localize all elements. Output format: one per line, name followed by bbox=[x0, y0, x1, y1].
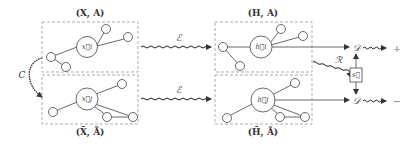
output-arrow-positive bbox=[363, 47, 386, 49]
encoded-pair-label-original: (H, A) bbox=[248, 8, 278, 18]
encoder-label-top: ℰ bbox=[176, 33, 181, 43]
discriminator-label-bottom: 𝒟 bbox=[353, 96, 360, 107]
positive-output-label: + bbox=[393, 43, 401, 54]
diagram-canvas: (X, A) (X̃, Ã) (H, A) (H̃, Ã) x⃗i x⃗j h⃗… bbox=[0, 0, 414, 149]
encoder-arrow-bottom bbox=[141, 98, 211, 100]
encoded-pair-label-augmented: (H̃, Ã) bbox=[248, 127, 278, 137]
corruption-label: C bbox=[19, 70, 26, 80]
node-label-hi: h⃗i bbox=[256, 43, 267, 51]
discriminator-label-top: 𝒟 bbox=[353, 43, 360, 54]
input-pair-label-augmented: (X̃, Ã) bbox=[76, 127, 105, 137]
readout-label: ℛ bbox=[335, 55, 342, 65]
output-arrow-negative bbox=[363, 100, 386, 102]
node-label-xj: x⃗j bbox=[82, 95, 92, 103]
encoder-label-bottom: ℰ bbox=[176, 85, 181, 95]
readout-arrow bbox=[313, 62, 352, 73]
negative-output-label: − bbox=[393, 96, 401, 107]
node-label-hj: h⃗j bbox=[258, 96, 269, 104]
encoder-arrow-top bbox=[141, 46, 211, 48]
corruption-arrow bbox=[29, 58, 42, 97]
graph-augmented bbox=[49, 80, 138, 122]
summary-node-label: s⃗ bbox=[352, 71, 360, 79]
node-label-xi: x⃗i bbox=[82, 43, 92, 51]
input-pair-label-original: (X, A) bbox=[76, 8, 105, 18]
